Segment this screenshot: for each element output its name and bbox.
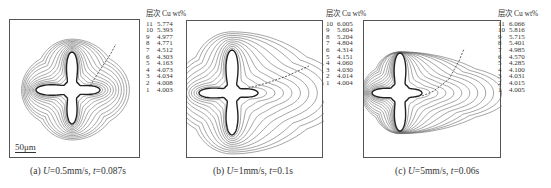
legend-level: 1: [326, 80, 337, 87]
legend-b: 层次 Cu wt% 106.00595.60485.20474.80464.31…: [326, 11, 366, 87]
caption-b: (b) U=1mm/s, t=0.1s: [213, 166, 293, 176]
dendrite-contours-b: [187, 21, 324, 159]
legend-a: 层次 Cu wt% 115.774105.39394.97784.77174.5…: [146, 11, 186, 93]
legend-value: 4.005: [509, 87, 531, 94]
legend-value: 4.004: [337, 80, 359, 87]
legend-header: 层次 Cu wt%: [326, 11, 366, 18]
legend-row: 14.004: [326, 80, 366, 87]
scale-bar: 50μm: [15, 142, 36, 152]
dendrite-body: [199, 50, 258, 135]
legend-c: 层次 Cu wt% 116.066105.81695.71585.40174.9…: [498, 11, 538, 93]
caption-c: (c) U=5mm/s, t=0.06s: [395, 166, 479, 176]
measurement-trace: [90, 44, 116, 86]
dendrite-contours-a: [10, 20, 141, 159]
dendrite-contours-c: [364, 21, 502, 159]
caption-a: (a) U=0.5mm/s, t=0.087s: [30, 166, 126, 176]
contour-plot-b: [186, 20, 323, 158]
legend-value: 4.003: [157, 87, 179, 94]
legend-row: 14.003: [146, 87, 186, 94]
measurement-trace: [245, 66, 309, 89]
legend-level: 1: [146, 87, 157, 94]
scale-bar-label: 50μm: [15, 142, 36, 152]
legend-header: 层次 Cu wt%: [146, 11, 186, 18]
legend-level: 1: [498, 87, 509, 94]
legend-header: 层次 Cu wt%: [498, 11, 538, 18]
legend-row: 14.005: [498, 87, 538, 94]
contour-plot-c: [363, 20, 501, 158]
contour-plot-a: 50μm: [9, 19, 140, 158]
